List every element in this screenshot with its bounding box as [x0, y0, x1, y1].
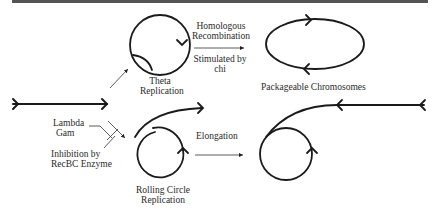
label-lambda-gam: Lambda Gam [53, 118, 84, 138]
label-elongation: Elongation [196, 131, 238, 141]
label-rolling-circle: Rolling Circle Replication [131, 185, 195, 205]
linear-dna [13, 99, 107, 109]
label-inhibition-recbc: Inhibition by RecBC Enzyme [51, 149, 112, 169]
label-packageable-chromosomes: Packageable Chromosomes [261, 82, 366, 92]
rolling-circle-early [135, 103, 203, 177]
packageable-chromosome [266, 15, 364, 74]
inhibition-symbol [89, 121, 125, 148]
label-theta: Theta Replication [140, 76, 180, 96]
arrow-to-theta [110, 69, 128, 88]
label-stimulated-by-chi: Stimulated by chi [192, 54, 248, 74]
label-homologous-recombination: Homologous Recombination [188, 21, 254, 41]
rolling-circle-late [260, 100, 425, 180]
theta-circle [130, 15, 190, 75]
